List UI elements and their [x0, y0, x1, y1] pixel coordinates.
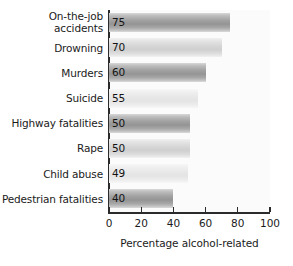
x-axis-title: Percentage alcohol-related [109, 237, 270, 249]
plot-area: 75 70 60 55 50 50 49 40 [109, 10, 270, 212]
x-axis-tick-label: 100 [260, 217, 280, 229]
bar [109, 89, 198, 108]
bar [109, 63, 206, 82]
x-axis-tick-label: 40 [167, 217, 180, 229]
x-axis-tick [173, 207, 174, 212]
x-axis-tick-label: 60 [199, 217, 212, 229]
x-axis-tick-label: 80 [231, 217, 244, 229]
category-label-line1: Child abuse [0, 169, 103, 181]
x-axis-tick [269, 207, 270, 212]
category-label-line1: Rape [0, 143, 103, 155]
category-label: Rape [0, 143, 103, 155]
x-axis-tick-label: 20 [135, 217, 148, 229]
category-label-line1: On-the-job [0, 11, 103, 23]
category-label-line1: Drowning [0, 43, 103, 55]
category-axis: On-the-job accidents Drowning Murders Su… [0, 10, 106, 212]
x-axis-line [108, 212, 270, 214]
category-label: Pedestrian fatalities [0, 194, 103, 206]
category-label: Highway fatalities [0, 118, 103, 130]
category-label-line1: Suicide [0, 93, 103, 105]
category-label: Murders [0, 68, 103, 80]
bar [109, 189, 173, 208]
bar [109, 13, 230, 32]
category-label: On-the-job accidents [0, 11, 103, 34]
bar [109, 139, 190, 158]
x-axis-tick-label: 0 [106, 217, 113, 229]
category-label: Drowning [0, 43, 103, 55]
category-label-line1: Pedestrian fatalities [0, 194, 103, 206]
category-label-line1: Murders [0, 68, 103, 80]
x-axis-tick [108, 207, 109, 212]
category-label-line2: accidents [0, 23, 103, 35]
x-axis-tick [141, 207, 142, 212]
bar [109, 114, 190, 133]
category-label: Suicide [0, 93, 103, 105]
x-axis-tick [237, 207, 238, 212]
category-label: Child abuse [0, 169, 103, 181]
bar [109, 38, 222, 57]
category-label-line1: Highway fatalities [0, 118, 103, 130]
x-axis-tick [205, 207, 206, 212]
bar-chart: On-the-job accidents Drowning Murders Su… [0, 0, 293, 266]
bar [109, 164, 188, 183]
